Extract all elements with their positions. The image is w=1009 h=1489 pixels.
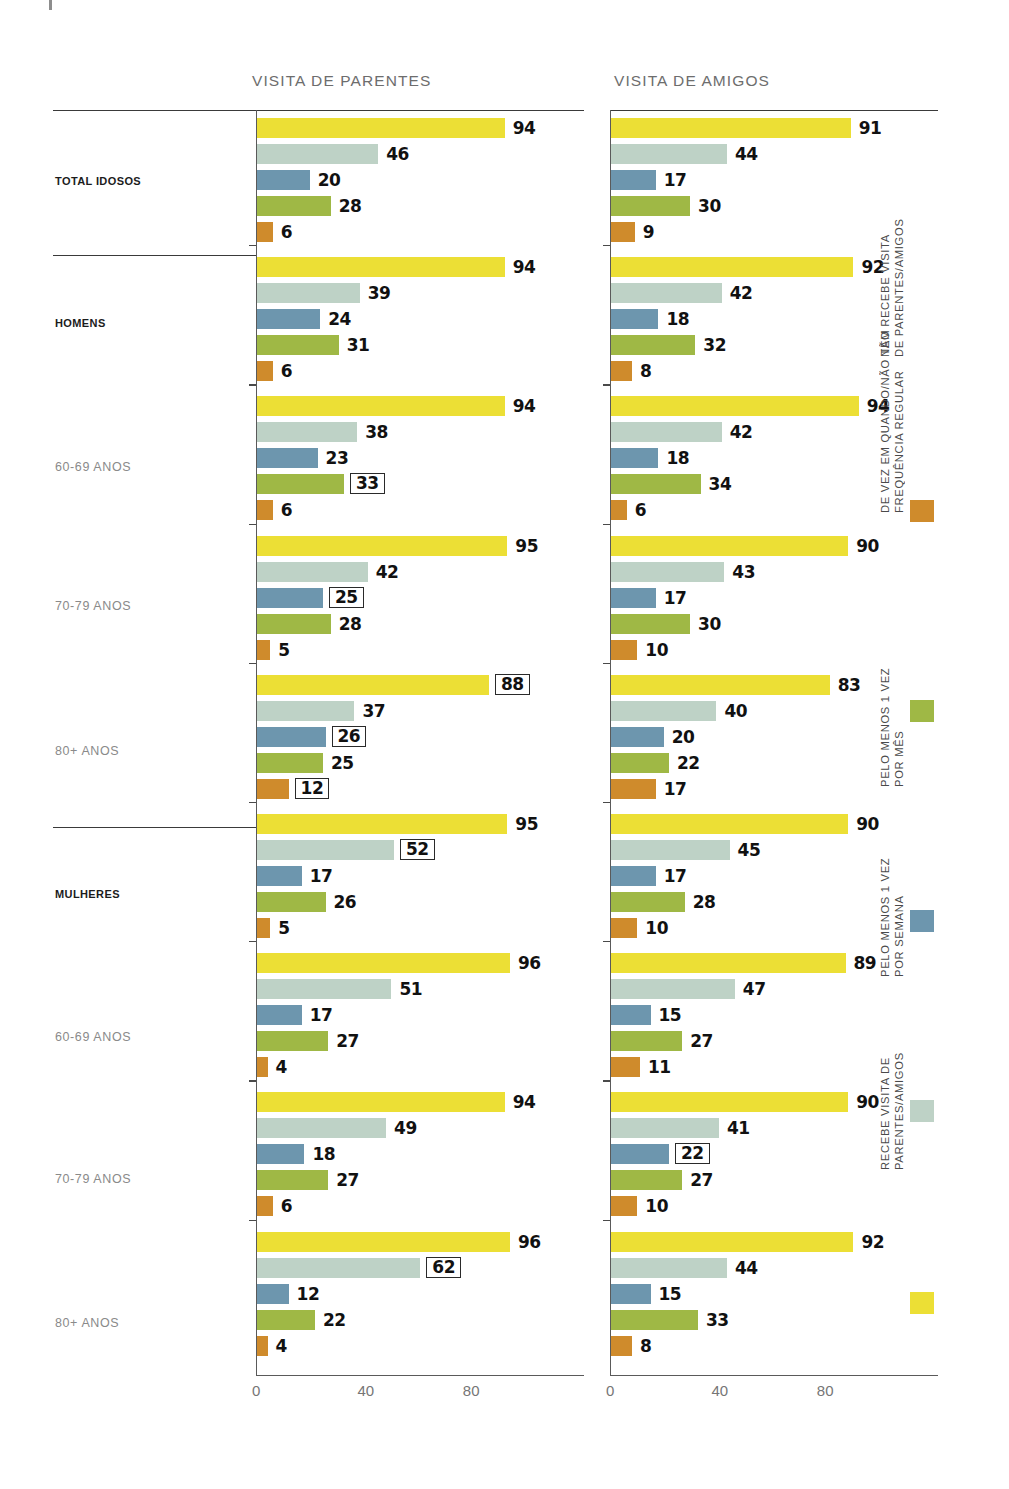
bar-value-label: 15 — [659, 1284, 682, 1304]
bar-value-label: 20 — [672, 727, 695, 747]
bar-value-label: 38 — [365, 422, 388, 442]
bar-value-label: 5 — [278, 640, 289, 660]
group-tick — [603, 245, 610, 246]
bar-value-label: 45 — [738, 840, 761, 860]
bar-value-label: 27 — [336, 1031, 359, 1051]
bar-value-label: 52 — [400, 839, 435, 860]
group-tick — [603, 1220, 610, 1221]
bar-de-vez-em-quando — [611, 1310, 698, 1330]
bar-value-label: 27 — [690, 1031, 713, 1051]
panel-top-rule — [610, 110, 938, 111]
bar-value-label: 94 — [513, 257, 536, 277]
bar-value-label: 28 — [339, 196, 362, 216]
bar-value-label: 18 — [666, 448, 689, 468]
bar-recebe-visita — [257, 1232, 510, 1252]
bar-value-label: 20 — [318, 170, 341, 190]
bar-value-label: 95 — [515, 814, 538, 834]
bar-de-vez-em-quando — [257, 196, 331, 216]
legend-swatch-de-vez-em-quando — [910, 700, 934, 722]
cropped-title-bar — [49, 0, 309, 10]
bar-value-label: 4 — [276, 1336, 287, 1356]
group-tick — [249, 1080, 256, 1081]
bar-uma-vez-semana — [611, 283, 722, 303]
bar-uma-vez-mes — [257, 170, 310, 190]
bar-value-label: 90 — [856, 814, 879, 834]
bar-recebe-visita — [611, 396, 859, 416]
bar-value-label: 10 — [645, 1196, 668, 1216]
bar-uma-vez-mes — [257, 588, 323, 608]
bar-value-label: 51 — [399, 979, 422, 999]
bar-value-label: 17 — [664, 588, 687, 608]
x-axis-tick: 40 — [357, 1382, 374, 1399]
legend-swatch-recebe-visita — [910, 1292, 934, 1314]
group-tick — [249, 802, 256, 803]
bar-value-label: 17 — [310, 1005, 333, 1025]
bar-value-label: 12 — [295, 778, 330, 799]
bar-value-label: 11 — [648, 1057, 671, 1077]
rule-top — [53, 110, 256, 111]
bar-de-vez-em-quando — [611, 753, 669, 773]
panel-top-rule — [256, 110, 584, 111]
bar-uma-vez-semana — [257, 144, 378, 164]
panel-title-amigos: VISITA DE AMIGOS — [614, 72, 770, 90]
panel-title-parentes: VISITA DE PARENTES — [252, 72, 431, 90]
bar-recebe-visita — [257, 675, 489, 695]
bar-value-label: 32 — [703, 335, 726, 355]
group-tick — [603, 1080, 610, 1081]
bar-uma-vez-semana — [257, 701, 354, 721]
bar-value-label: 92 — [861, 1232, 884, 1252]
bar-uma-vez-semana — [257, 562, 368, 582]
bar-de-vez-em-quando — [257, 892, 326, 912]
group-tick — [249, 524, 256, 525]
bar-value-label: 42 — [730, 422, 753, 442]
bar-uma-vez-mes — [611, 727, 664, 747]
bar-value-label: 6 — [281, 1196, 292, 1216]
bar-value-label: 8 — [640, 1336, 651, 1356]
bar-nao-recebe — [257, 779, 289, 799]
group-tick — [603, 663, 610, 664]
chart-page: VISITA DE PARENTES VISITA DE AMIGOS TOTA… — [0, 0, 1009, 1489]
bar-value-label: 4 — [276, 1057, 287, 1077]
bar-value-label: 9 — [643, 222, 654, 242]
bar-nao-recebe — [611, 779, 656, 799]
x-axis — [610, 1375, 938, 1376]
bar-recebe-visita — [611, 1092, 848, 1112]
bar-de-vez-em-quando — [611, 614, 690, 634]
bar-nao-recebe — [257, 918, 270, 938]
bar-nao-recebe — [611, 918, 637, 938]
x-axis-tick: 0 — [606, 1382, 614, 1399]
bar-value-label: 46 — [386, 144, 409, 164]
x-axis — [256, 1375, 584, 1376]
bar-de-vez-em-quando — [257, 1031, 328, 1051]
bar-value-label: 89 — [854, 953, 877, 973]
bar-value-label: 47 — [743, 979, 766, 999]
bar-recebe-visita — [611, 814, 848, 834]
bar-value-label: 49 — [394, 1118, 417, 1138]
bar-recebe-visita — [611, 257, 853, 277]
bar-value-label: 43 — [732, 562, 755, 582]
bar-value-label: 18 — [312, 1144, 335, 1164]
bar-uma-vez-mes — [611, 588, 656, 608]
bar-value-label: 22 — [675, 1143, 710, 1164]
bar-nao-recebe — [611, 640, 637, 660]
bar-de-vez-em-quando — [257, 614, 331, 634]
bar-uma-vez-semana — [257, 840, 394, 860]
bar-recebe-visita — [611, 675, 830, 695]
bar-value-label: 17 — [310, 866, 333, 886]
bar-uma-vez-semana — [611, 1258, 727, 1278]
legend-label-de-vez-em-quando: DE VEZ EM QUANDO/NÃO TEM FREQUÊNCIA REGU… — [878, 330, 906, 513]
bar-recebe-visita — [257, 814, 507, 834]
bar-value-label: 28 — [339, 614, 362, 634]
bar-value-label: 12 — [297, 1284, 320, 1304]
bar-value-label: 10 — [645, 640, 668, 660]
x-axis-tick: 80 — [817, 1382, 834, 1399]
bar-nao-recebe — [257, 1057, 268, 1077]
group-tick — [249, 245, 256, 246]
bar-value-label: 25 — [331, 753, 354, 773]
group-tick — [603, 941, 610, 942]
bar-value-label: 25 — [329, 587, 364, 608]
legend-label-recebe-visita: RECEBE VISITA DE PARENTES/AMIGOS — [878, 1052, 906, 1170]
bar-nao-recebe — [257, 1196, 273, 1216]
bar-uma-vez-mes — [257, 1284, 289, 1304]
title-rule — [49, 0, 52, 10]
